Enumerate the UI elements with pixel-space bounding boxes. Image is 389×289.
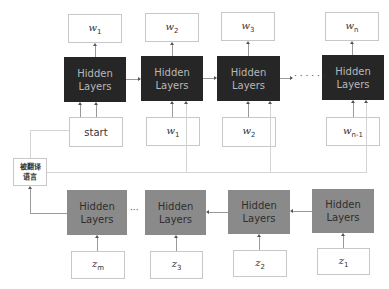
input-arrow [353,101,354,117]
context-arrow [96,103,97,117]
input-arrow [248,102,249,117]
token-label: z1 [339,255,349,269]
encoder-input-arrow [343,235,344,248]
encoder-recurrent-arrow [209,212,228,213]
token-label: w3 [241,20,254,34]
token-label: wn [346,20,359,34]
encoder-input-arrow [176,237,177,251]
arrow-head-icon [350,41,354,44]
block-label: HiddenLayers [325,198,360,224]
encoder-input-z3: z3 [150,251,203,279]
block-label: HiddenLayers [231,66,266,92]
block-label: HiddenLayers [335,65,370,91]
arrow-head-icon [214,76,217,80]
decoder-input-w2: w2 [222,117,276,147]
arrow-head-icon [78,102,82,105]
decoder-input-w1: w1 [146,117,200,146]
encoder-input-z1: z1 [317,248,370,275]
decoder-input-start: start [69,117,123,147]
arrow-head-icon [364,100,368,103]
output-arrow [95,45,96,57]
token-label: z3 [172,258,182,272]
decoder-input-wn-1: wn-1 [326,117,380,146]
decoder-hidden-block-n: HiddenLayers [322,55,384,100]
decoder-output-w3: w3 [221,12,275,41]
decoder-hidden-block-2: HiddenLayers [141,56,203,101]
decoder-hidden-block-3: HiddenLayers [217,56,280,101]
arrow-head-icon [95,235,99,238]
encoder-hidden-block-2: HiddenLayers [228,190,290,234]
decoder-output-w1: w1 [68,14,122,43]
output-arrow [172,44,173,56]
encoder-recurrent-arrow [293,211,312,212]
arrow-head-icon [246,101,250,104]
arrow-head-icon [351,100,355,103]
context-line [270,102,271,172]
output-arrow [352,43,353,55]
block-label: HiddenLayers [154,66,189,92]
arrow-head-icon [138,77,141,81]
arrow-head-icon [290,76,293,80]
encoder-input-z2: z2 [233,250,287,277]
arrow-head-icon [170,101,174,104]
arrow-head-icon [94,102,98,105]
block-label: HiddenLayers [77,67,112,93]
token-label: w1 [166,125,179,139]
encoder-hidden-block-1: HiddenLayers [312,189,374,233]
token-label: wn-1 [343,125,363,139]
context-to-start-horizontal [30,130,69,131]
token-label: w1 [88,22,101,36]
decoder-hidden-block-1: HiddenLayers [64,57,126,102]
arrow-head-icon [290,209,293,213]
output-arrow [248,43,249,56]
encoder-input-zm: zm [71,251,125,279]
token-label: start [84,127,107,138]
block-label: HiddenLayers [158,200,193,226]
context-to-start-vertical [30,130,31,158]
encoder-output-arrow-horizontal [30,213,67,214]
token-label: z2 [255,257,265,271]
decoder-ellipsis: · · · · · · [294,71,325,81]
input-arrow [80,103,81,117]
decoder-output-w2: w2 [145,13,199,42]
arrow-head-icon [174,235,178,238]
arrow-head-icon [206,210,209,214]
token-label: w2 [165,21,178,35]
token-label: w2 [242,125,255,139]
encoder-input-arrow [259,236,260,250]
context-line [186,102,187,172]
source-language-box: 被翻译语言 [13,158,47,186]
context-bus-horizontal [47,172,367,173]
arrow-head-icon [184,101,188,104]
context-line [366,101,367,172]
arrow-head-icon [246,41,250,44]
block-label: HiddenLayers [241,199,276,225]
encoder-hidden-block-m: HiddenLayers [67,190,127,235]
encoder-ellipsis: ··· [130,205,139,215]
arrow-head-icon [341,233,345,236]
encoder-hidden-block-3: HiddenLayers [145,190,206,235]
decoder-output-wn: wn [325,12,379,41]
arrow-head-icon [257,234,261,237]
token-label: zm [92,258,104,272]
encoder-output-arrow-vertical [30,188,31,213]
input-arrow [172,102,173,117]
arrow-head-icon [28,186,32,189]
arrow-head-icon [268,101,272,104]
encoder-input-arrow [97,237,98,251]
block-label: HiddenLayers [79,200,114,226]
arrow-head-icon [170,42,174,45]
arrow-head-icon [93,43,97,46]
source-language-label: 被翻译语言 [20,162,41,182]
